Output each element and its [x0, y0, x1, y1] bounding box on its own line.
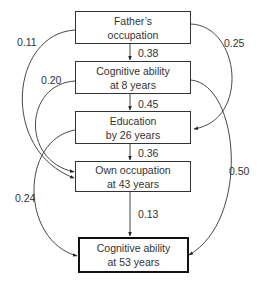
coef-cog8-education: 0.45 [138, 98, 158, 110]
node-education-26: Education by 26 years [75, 111, 191, 144]
node-label: at 53 years [108, 255, 160, 269]
node-label: at 43 years [107, 177, 159, 191]
coef-father-cog8: 0.38 [138, 47, 158, 59]
node-cognitive-ability-8: Cognitive ability at 8 years [75, 61, 191, 94]
node-label: Education [110, 114, 157, 128]
coef-occupation-cog53: 0.13 [138, 208, 158, 220]
edge-cog8-to-occupation [35, 81, 75, 172]
coef-cog8-occupation: 0.20 [41, 74, 61, 86]
edge-education-to-cog53 [34, 130, 77, 256]
node-label: by 26 years [106, 128, 160, 142]
coef-cog8-cog53: 0.50 [229, 165, 249, 177]
node-fathers-occupation: Father’s occupation [75, 11, 191, 44]
path-diagram: Father’s occupation Cognitive ability at… [0, 0, 267, 284]
coef-father-education: 0.25 [224, 37, 244, 49]
coef-father-occupation: 0.11 [17, 36, 37, 48]
node-label: Cognitive ability [96, 64, 170, 78]
edge-father-to-occupation [22, 30, 75, 178]
node-label: Cognitive ability [97, 241, 171, 255]
node-label: Father’s [114, 14, 152, 28]
edge-cog8-to-cog53 [189, 80, 231, 255]
node-cognitive-ability-53: Cognitive ability at 53 years [78, 237, 189, 273]
node-label: occupation [108, 28, 159, 42]
node-own-occupation-43: Own occupation at 43 years [75, 161, 191, 192]
node-label: Own occupation [95, 163, 170, 177]
coef-education-cog53: 0.24 [15, 192, 35, 204]
coef-education-occupation: 0.36 [138, 147, 158, 159]
node-label: at 8 years [110, 78, 156, 92]
